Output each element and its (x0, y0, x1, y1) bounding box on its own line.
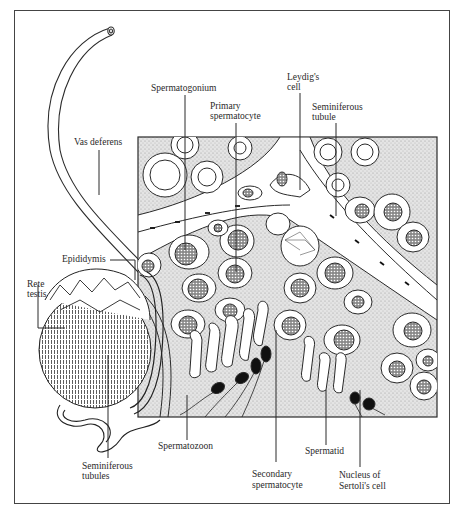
label-nucleus-sertoli-2: Sertoli's cell (339, 481, 386, 492)
label-spermatid: Spermatid (305, 446, 344, 457)
label-nucleus-sertoli-1: Nucleus of (339, 470, 380, 481)
label-seminiferous-tubules-1: Seminiferous (82, 461, 133, 472)
label-leydigs-cell-2: cell (287, 82, 301, 93)
label-spermatozoon: Spermatozoon (158, 441, 213, 452)
seminiferous-tissue-section (137, 131, 440, 417)
label-seminiferous-tubule-1: Seminiferous (312, 102, 363, 113)
label-primary-spermatocyte-1: Primary (210, 101, 241, 112)
label-seminiferous-tubule-2: tubule (312, 112, 336, 123)
label-secondary-spermatocyte-2: spermatocyte (252, 480, 303, 491)
label-vas-deferens: Vas deferens (74, 137, 122, 148)
testis (39, 269, 163, 452)
label-rete-testis-1: Rete (27, 279, 44, 290)
label-epididymis: Epididymis (62, 254, 106, 265)
label-seminiferous-tubules-2: tubules (82, 471, 109, 482)
label-secondary-spermatocyte-1: Secondary (252, 469, 292, 480)
label-spermatogonium: Spermatogonium (151, 83, 216, 94)
label-leydigs-cell-1: Leydig's (287, 72, 319, 83)
label-rete-testis-2: testis (27, 289, 47, 300)
label-primary-spermatocyte-2: spermatocyte (210, 111, 261, 122)
